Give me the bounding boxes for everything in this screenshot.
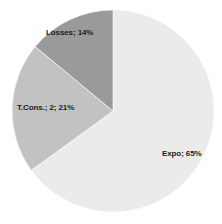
pie-slice-label-tcons: T.Cons.; 2; 21% [17,104,74,112]
pie-slice-label-expo: Expo; 65% [162,150,202,158]
pie-slice-label-losses: Losses; 14% [46,29,93,37]
pie-chart-canvas [0,0,222,224]
pie-chart: Losses; 14% T.Cons.; 2; 21% Expo; 65% [0,0,222,224]
